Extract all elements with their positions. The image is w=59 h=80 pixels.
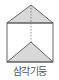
top-face [7,5,53,23]
triangular-prism-figure [0,0,59,64]
bottom-face [7,42,53,62]
figure-caption: 삼각기둥 [0,65,59,79]
